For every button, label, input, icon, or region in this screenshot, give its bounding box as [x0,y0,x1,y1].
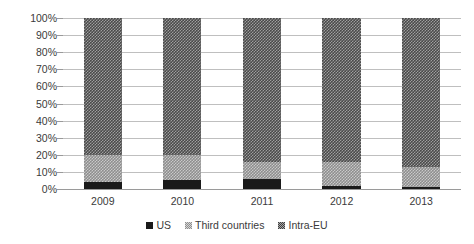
bar-segment[interactable] [84,18,122,155]
bar-segment[interactable] [163,180,201,189]
legend-item[interactable]: Third countries [185,219,264,231]
bar-segment[interactable] [402,187,440,189]
bar-segment[interactable] [402,167,440,188]
bar-segment[interactable] [84,155,122,182]
plot-area [63,18,461,189]
bar-segment[interactable] [243,162,281,179]
legend-item[interactable]: US [146,219,171,231]
bar-segment[interactable] [243,18,281,162]
x-axis-tick-label: 2010 [143,191,223,211]
stacked-bar[interactable] [322,18,360,189]
bar-slot [381,18,461,189]
legend-label: US [156,219,171,231]
chart-legend: USThird countriesIntra-EU [0,219,474,231]
legend-label: Third countries [195,219,264,231]
legend-item[interactable]: Intra-EU [278,219,327,231]
bar-segment[interactable] [402,18,440,167]
legend-swatch-icon [146,222,153,229]
bar-group [63,18,461,189]
legend-swatch-icon [185,222,192,229]
x-axis-tick-label: 2012 [302,191,382,211]
stacked-bar[interactable] [243,18,281,189]
bar-slot [143,18,223,189]
bar-slot [302,18,382,189]
bar-segment[interactable] [163,18,201,155]
stacked-bar[interactable] [402,18,440,189]
bar-segment[interactable] [322,162,360,186]
bar-segment[interactable] [84,182,122,189]
y-axis-tickmarks [0,18,63,189]
bar-segment[interactable] [243,179,281,189]
legend-swatch-icon [278,222,285,229]
stacked-bar[interactable] [84,18,122,189]
x-axis-tick-label: 2013 [381,191,461,211]
bar-segment[interactable] [322,18,360,162]
legend-label: Intra-EU [288,219,327,231]
x-axis-tick-label: 2011 [222,191,302,211]
x-axis-labels: 20092010201120122013 [63,191,461,211]
bar-segment[interactable] [163,155,201,181]
bar-slot [63,18,143,189]
x-axis-tick-label: 2009 [63,191,143,211]
bar-segment[interactable] [322,186,360,189]
bar-slot [222,18,302,189]
stacked-bar-chart: 100%90%80%70%60%50%40%30%20%10%0% 200920… [0,0,474,244]
axis-baseline [63,189,461,190]
stacked-bar[interactable] [163,18,201,189]
